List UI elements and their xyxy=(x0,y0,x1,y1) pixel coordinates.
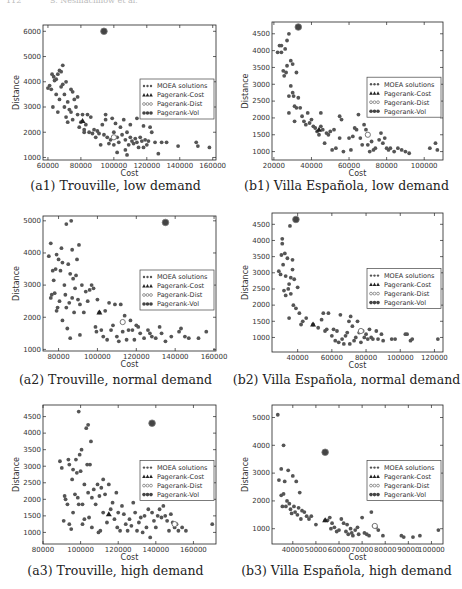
y-tick-label: 2000 xyxy=(252,497,270,505)
moea-point xyxy=(120,504,124,508)
moea-point xyxy=(297,311,301,315)
moea-point xyxy=(411,535,415,539)
moea-point xyxy=(88,463,92,467)
moea-point xyxy=(287,111,291,115)
moea-point xyxy=(119,302,123,306)
moea-point xyxy=(176,144,180,148)
moea-point xyxy=(126,529,130,533)
legend-moea-icon xyxy=(377,274,379,276)
moea-point xyxy=(291,268,295,272)
moea-point xyxy=(276,50,280,54)
moea-point xyxy=(368,150,372,154)
moea-point xyxy=(292,277,296,281)
moea-point xyxy=(56,72,60,76)
pagerank-dist-marker xyxy=(120,319,125,324)
moea-point xyxy=(127,143,131,147)
moea-point xyxy=(112,143,116,147)
moea-point xyxy=(283,47,287,51)
moea-point xyxy=(299,323,303,327)
moea-point xyxy=(73,492,77,496)
moea-point xyxy=(282,443,286,447)
moea-point xyxy=(69,110,73,114)
moea-point xyxy=(346,532,350,536)
moea-point xyxy=(89,115,93,119)
moea-point xyxy=(356,319,360,323)
moea-point xyxy=(183,335,187,339)
moea-point xyxy=(313,126,317,130)
moea-point xyxy=(84,290,88,294)
moea-point xyxy=(304,316,308,320)
moea-point xyxy=(379,131,383,135)
x-tick-label: 40000 xyxy=(287,354,309,362)
moea-point xyxy=(362,336,366,340)
legend-open-circle-icon xyxy=(377,101,380,104)
scatter-plot: 2000040000600008000010000010001500200025… xyxy=(231,0,462,196)
moea-point xyxy=(342,521,346,525)
moea-point xyxy=(129,319,133,323)
moea-point xyxy=(300,114,304,118)
moea-point xyxy=(98,494,102,498)
moea-point xyxy=(374,329,378,333)
legend-large-circle-icon xyxy=(369,301,373,305)
x-axis-label: Cost xyxy=(121,553,139,562)
legend-large-circle-icon xyxy=(376,109,380,113)
legend-label: Pagerank-Vol xyxy=(384,108,426,116)
moea-point xyxy=(364,332,368,336)
legend-moea-icon xyxy=(146,85,148,87)
moea-point xyxy=(148,125,152,129)
legend-moea-icon xyxy=(143,276,145,278)
moea-point xyxy=(132,142,136,146)
moea-point xyxy=(436,528,440,532)
moea-point xyxy=(140,139,144,143)
moea-point xyxy=(142,336,146,340)
moea-point xyxy=(332,525,336,529)
moea-point xyxy=(296,96,300,100)
moea-point xyxy=(115,526,119,530)
moea-point xyxy=(70,248,74,252)
pagerank-vol-marker xyxy=(162,219,169,226)
chart-b2-villa-espanola-normal: 4000060000800001000001200001000150020002… xyxy=(231,196,462,392)
legend-open-circle-icon xyxy=(370,101,373,104)
chart-a2-trouville-normal: 8000010000012000014000016000010002000300… xyxy=(0,196,231,392)
moea-point xyxy=(316,326,320,330)
moea-point xyxy=(49,296,53,300)
legend-open-circle-icon xyxy=(370,484,373,487)
legend-label: Pagerank-Dist xyxy=(157,291,203,299)
y-tick-label: 1500 xyxy=(252,131,270,139)
legend-open-circle-icon xyxy=(143,484,146,487)
moea-point xyxy=(84,426,88,430)
moea-point xyxy=(87,130,91,134)
moea-point xyxy=(338,136,342,140)
moea-point xyxy=(289,59,293,63)
moea-point xyxy=(115,151,119,155)
moea-point xyxy=(68,272,72,276)
moea-point xyxy=(292,94,296,98)
moea-point xyxy=(63,494,67,498)
y-axis-label: Distance xyxy=(241,265,250,300)
legend-large-circle-icon xyxy=(373,109,377,113)
moea-point xyxy=(291,303,295,307)
chart-a3-trouville-high: 8000010000012000014000016000010001500200… xyxy=(0,392,231,588)
legend-large-circle-icon xyxy=(146,111,150,115)
moea-point xyxy=(288,224,292,228)
moea-point xyxy=(99,143,103,147)
x-tick-label: 60000 xyxy=(321,354,343,362)
moea-point xyxy=(388,146,392,150)
y-axis-label: Distance xyxy=(12,457,21,492)
scatter-plot: 4000050000600007000080000900001000001000… xyxy=(231,392,462,589)
moea-point xyxy=(294,480,298,484)
y-tick-label: 4000 xyxy=(23,78,41,86)
moea-point xyxy=(148,331,152,335)
moea-point xyxy=(114,491,118,495)
moea-point xyxy=(279,44,283,48)
moea-point xyxy=(71,90,75,94)
moea-point xyxy=(143,138,147,142)
moea-point xyxy=(98,529,102,533)
moea-point xyxy=(67,301,71,305)
moea-point xyxy=(111,501,115,505)
pagerank-vol-marker xyxy=(295,24,302,31)
moea-point xyxy=(107,142,111,146)
legend-open-circle-icon xyxy=(143,294,146,297)
moea-point xyxy=(96,483,100,487)
chart-caption: (a2) Trouville, normal demand xyxy=(0,372,231,387)
